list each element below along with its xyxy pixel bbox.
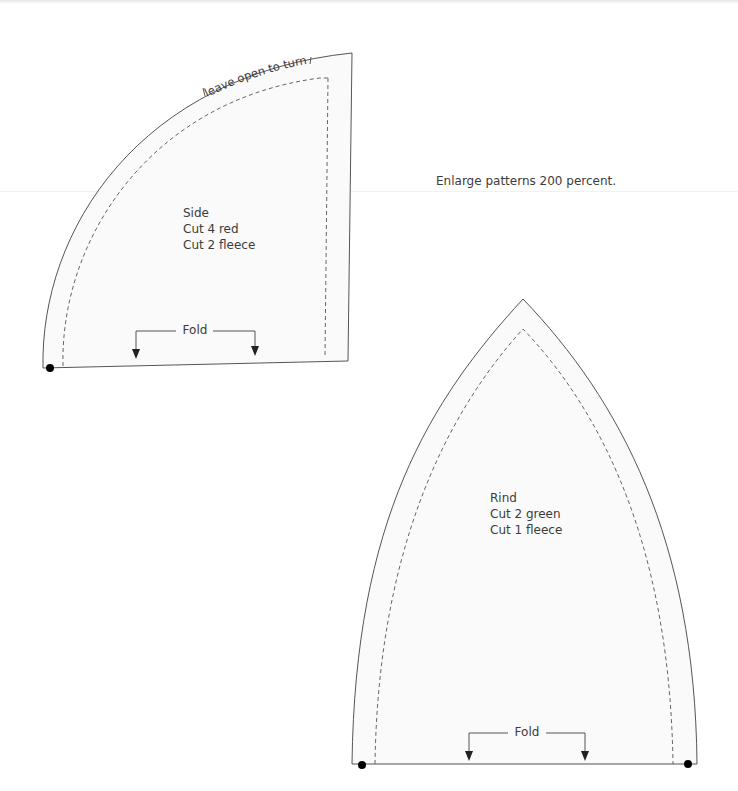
pattern-sheet: leave open to turn bbox=[0, 0, 738, 791]
side-cut-red: Cut 4 red bbox=[183, 221, 255, 237]
side-match-dot-icon bbox=[46, 364, 54, 372]
side-cut-fleece: Cut 2 fleece bbox=[183, 237, 255, 253]
enlarge-instruction: Enlarge patterns 200 percent. bbox=[436, 174, 616, 188]
rind-match-dot-right-icon bbox=[684, 760, 692, 768]
side-fold-label: Fold bbox=[183, 323, 208, 337]
rind-piece-label: Rind Cut 2 green Cut 1 fleece bbox=[490, 490, 562, 538]
side-piece-label: Side Cut 4 red Cut 2 fleece bbox=[183, 205, 255, 253]
rind-match-dot-left-icon bbox=[358, 761, 366, 769]
side-name: Side bbox=[183, 205, 255, 221]
rind-cut-fleece: Cut 1 fleece bbox=[490, 522, 562, 538]
rind-fold-label: Fold bbox=[515, 725, 540, 739]
rind-cut-green: Cut 2 green bbox=[490, 506, 562, 522]
rind-name: Rind bbox=[490, 490, 562, 506]
